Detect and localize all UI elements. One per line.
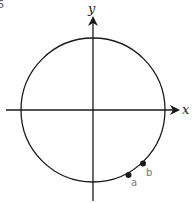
point-b-label: b (146, 167, 152, 178)
x-axis-label: x (182, 102, 190, 117)
unit-circle-diagram: x y a b (0, 0, 193, 203)
y-axis-label: y (87, 1, 96, 16)
point-a-label: a (131, 177, 137, 188)
point-b (140, 161, 146, 167)
